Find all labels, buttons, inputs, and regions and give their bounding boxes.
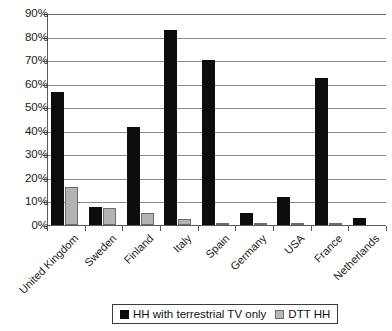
- bar-group: [123, 14, 161, 225]
- y-axis-tick-label: 60%: [8, 79, 48, 91]
- x-axis-tick-label: Germany: [228, 232, 268, 272]
- legend-item-label: DTT HH: [288, 308, 330, 320]
- bar-group: [349, 14, 387, 225]
- y-axis-tick-label: 30%: [8, 149, 48, 161]
- bar-group: [236, 14, 274, 225]
- x-axis-tick: [386, 226, 387, 231]
- y-axis-tick-label: 40%: [8, 126, 48, 138]
- bar-group: [274, 14, 312, 225]
- bar: [291, 223, 304, 225]
- x-axis-tick-label: Spain: [203, 232, 231, 260]
- x-axis-tick: [85, 226, 86, 231]
- bar: [202, 60, 215, 225]
- x-axis-tick: [273, 226, 274, 231]
- bar: [254, 223, 267, 225]
- y-axis-tick-label: 50%: [8, 102, 48, 114]
- y-axis-tick-label: 0%: [8, 220, 48, 232]
- y-axis-tick-label: 90%: [8, 8, 48, 20]
- bar-group: [312, 14, 350, 225]
- x-axis-tick: [198, 226, 199, 231]
- bar: [216, 223, 229, 225]
- x-axis-tick: [311, 226, 312, 231]
- x-axis-tick: [348, 226, 349, 231]
- y-axis-tick-label: 80%: [8, 32, 48, 44]
- x-axis-tick-label: USA: [282, 232, 306, 256]
- bar-group: [199, 14, 237, 225]
- x-axis-tick: [235, 226, 236, 231]
- x-axis-tick-label: United Kingdom: [16, 232, 80, 296]
- bar: [315, 78, 328, 225]
- legend-item: DTT HH: [275, 308, 330, 320]
- y-axis-tick-label: 10%: [8, 196, 48, 208]
- y-axis-tick-label: 70%: [8, 55, 48, 67]
- gray-square-icon: [275, 310, 284, 319]
- legend-item-label: HH with terrestrial TV only: [133, 308, 266, 320]
- x-axis-tick: [160, 226, 161, 231]
- x-axis-tick: [122, 226, 123, 231]
- x-axis-tick-label: Finland: [122, 232, 156, 266]
- chart-legend: HH with terrestrial TV onlyDTT HH: [112, 304, 338, 324]
- bar: [329, 223, 342, 225]
- bar: [164, 30, 177, 226]
- x-axis-tick: [47, 226, 48, 231]
- x-axis-tick-label: Sweden: [81, 232, 118, 269]
- y-axis-tick-label: 20%: [8, 173, 48, 185]
- bar-chart: HH with terrestrial TV onlyDTT HH 0%10%2…: [0, 0, 392, 331]
- bar-group: [161, 14, 199, 225]
- bar: [178, 219, 191, 225]
- bar: [65, 187, 78, 225]
- bar: [51, 92, 64, 225]
- plot-area: [47, 14, 386, 226]
- bar-group: [48, 14, 86, 225]
- x-axis-tick-label: France: [311, 232, 344, 265]
- black-square-icon: [120, 310, 129, 319]
- x-axis-tick-label: Italy: [171, 232, 194, 255]
- legend-item: HH with terrestrial TV only: [120, 308, 266, 320]
